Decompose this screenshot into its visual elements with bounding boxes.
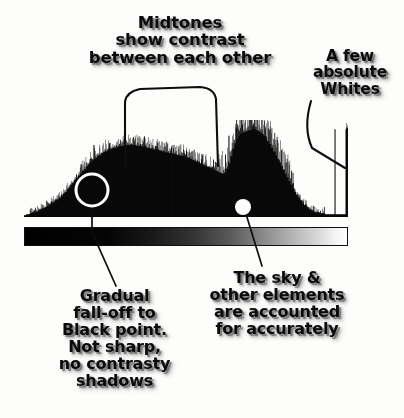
histogram-canvas: [24, 120, 348, 217]
callout-absolute-whites: A few absolute Whites: [300, 48, 400, 97]
histogram-annotation-diagram: Midtones show contrast between each othe…: [0, 0, 404, 418]
callout-sky-elements: The sky & other elements are accounted f…: [193, 270, 361, 338]
leader-line-black-point: [92, 206, 116, 286]
callout-midtones: Midtones show contrast between each othe…: [70, 14, 290, 66]
callout-black-point: Gradual fall-off to Black point. Not sha…: [32, 288, 197, 390]
tonal-gradient-ramp: [24, 227, 348, 246]
luminance-histogram: [24, 120, 348, 217]
